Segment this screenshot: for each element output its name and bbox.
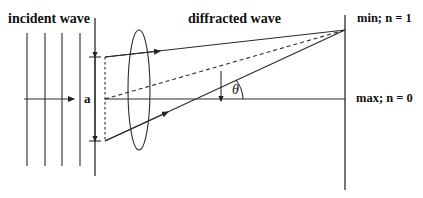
theta-angle-label: θ — [232, 83, 239, 97]
converging-lens — [128, 30, 150, 150]
minimum-order-label: min; n = 1 — [357, 12, 412, 25]
ray-lower-edge — [105, 30, 345, 141]
ray-center — [105, 30, 345, 99]
diffracted-wave-label: diffracted wave — [188, 12, 281, 26]
maximum-order-label: max; n = 0 — [356, 92, 413, 105]
incident-wave-label: incident wave — [8, 12, 90, 26]
slit-width-label: a — [84, 92, 91, 105]
ray-upper-edge — [105, 30, 345, 57]
diffraction-diagram: incident wave diffracted wave min; n = 1… — [0, 0, 423, 198]
